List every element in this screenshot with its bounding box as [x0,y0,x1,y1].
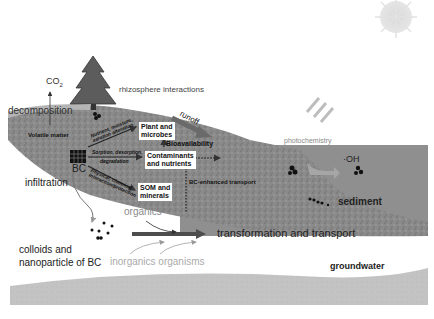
plant-microbes-box: Plant andmicrobes [139,122,175,140]
organics-label: organics [124,207,162,217]
diagram-canvas [0,0,434,319]
degradation-label: degradation [100,159,129,164]
bc-enhanced-transport-label: BC-enhanced transport [189,179,256,185]
groundwater-label: groundwater [330,262,385,271]
photochemistry-label: photochemistry [284,137,331,144]
sediment-label: sediment [338,197,382,207]
hydroxyl-radical-label: ·OH [343,155,360,164]
bc-label: BC [72,164,86,174]
bioavailability-label: Bioavailability [166,140,213,147]
light-rays-icon [307,98,333,122]
biochar-fate-diagram: CO2 rhizosphere interactions decompositi… [0,0,434,319]
colloid-particles [91,222,114,240]
decomposition-label: decomposition [8,106,72,116]
groundwater-band [10,268,428,305]
infiltration-label: infiltration [25,178,68,188]
sorption-label: Sorption, desorption, [92,150,143,155]
rhizosphere-label: rhizosphere interactions [119,86,204,94]
co2-label: CO2 [46,77,63,88]
som-minerals-box: SOM andminerals [138,183,172,201]
contaminants-nutrients-box: Contaminantsand nutrients [145,151,196,169]
sun-icon [375,0,417,38]
transformation-transport-label: transformation and transport [217,228,355,239]
bc-grid-icon [70,150,86,163]
volatile-matter-label: Volatile matter [28,132,69,138]
colloids-label: colloids andnanoparticle of BC [19,244,101,269]
inorganics-organisms-label: inorganics organisms [110,257,205,267]
